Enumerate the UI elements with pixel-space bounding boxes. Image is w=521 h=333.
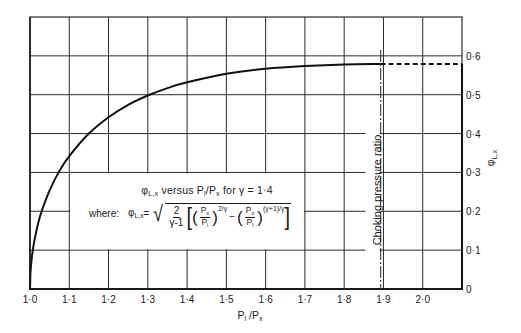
x-label-slash: /P xyxy=(246,309,259,321)
y-tick-label: 0·5 xyxy=(466,90,481,101)
ratio1-den: Pl xyxy=(200,218,209,228)
y-tick-label: 0·6 xyxy=(466,51,481,62)
y-tick-label: 0·3 xyxy=(466,167,481,178)
formula-phi-sub: L,x xyxy=(135,212,144,219)
title-phi: φ xyxy=(141,184,148,196)
x-tick-label: 2·0 xyxy=(416,294,431,305)
x-axis-label: Pl /Px xyxy=(237,310,262,324)
exponent-2: (γ+1)/γ xyxy=(263,205,285,212)
x-tick-label: 1·7 xyxy=(298,294,313,305)
pressure-ratio-2: Px Pl xyxy=(245,206,256,227)
x-tick-label: 1·2 xyxy=(101,294,116,305)
right-bracket: ] xyxy=(285,206,291,229)
x-tick-label: 1·1 xyxy=(62,294,77,305)
formula-coefficient: 2 γ-1 xyxy=(169,206,185,228)
y-tick-label: 0 xyxy=(466,284,472,295)
left-paren: ( xyxy=(237,209,243,226)
x-tick-label: 1·0 xyxy=(23,294,38,305)
left-bracket: [ xyxy=(186,206,192,229)
chart-title: φL,x versus Pl/Px for γ = 1·4 xyxy=(141,185,272,199)
y-tick-label: 0·1 xyxy=(466,245,481,256)
y-tick-label: 0·2 xyxy=(466,206,481,217)
title-mid: versus P xyxy=(158,184,204,196)
x-tick-label: 1·8 xyxy=(337,294,352,305)
chart: 1·01·11·21·31·41·51·61·71·81·92·000·10·2… xyxy=(0,0,521,333)
formula-radicand: 2 γ-1 [ ( Px Pl ) 2/γ − ( Px Pl ) (γ+1)/… xyxy=(165,203,292,228)
formula-where: where: xyxy=(89,209,119,219)
pl-sub: l xyxy=(252,222,253,228)
y-tick-label: 0·4 xyxy=(466,129,481,140)
ratio2-den: Pl xyxy=(246,218,255,228)
exponent-1: 2/γ xyxy=(218,205,227,212)
formula: where: φL,x = √ 2 γ-1 [ ( Px Pl ) 2/γ − … xyxy=(89,200,291,228)
pressure-ratio-1: Px Pl xyxy=(200,206,211,227)
y-label-phi: φ xyxy=(484,159,496,166)
y-label-sub: L,x xyxy=(491,150,499,160)
formula-minus: − xyxy=(229,212,235,222)
x-label-p: P xyxy=(237,309,244,321)
x-tick-label: 1·4 xyxy=(180,294,195,305)
formula-lhs: φL,x xyxy=(128,208,144,220)
coef-denominator: γ-1 xyxy=(169,218,185,229)
coef-numerator: 2 xyxy=(173,206,181,218)
x-tick-label: 1·9 xyxy=(376,294,391,305)
sqrt-icon: √ xyxy=(154,203,164,225)
title-phi-sub: L,x xyxy=(148,190,158,198)
title-slash: /P xyxy=(206,184,216,196)
left-paren: ( xyxy=(192,209,198,226)
pl-sub: l xyxy=(207,222,208,228)
x-tick-label: 1·6 xyxy=(258,294,273,305)
formula-equals: = xyxy=(144,209,150,219)
y-axis-label: φL,x xyxy=(485,150,499,166)
title-tail: for γ = 1·4 xyxy=(220,184,273,196)
x-tick-label: 1·3 xyxy=(141,294,156,305)
x-tick-label: 1·5 xyxy=(219,294,234,305)
choking-label: Choking pressure ratio xyxy=(371,135,383,246)
x-label-x-sub: x xyxy=(259,315,263,323)
